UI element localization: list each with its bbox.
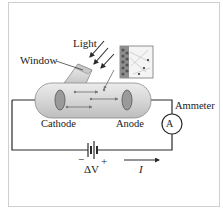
anode-label: Anode xyxy=(116,119,144,130)
cathode-electrode xyxy=(55,90,65,110)
ammeter-symbol: A xyxy=(166,119,173,129)
current-label: I xyxy=(139,164,143,175)
vacuum-tube xyxy=(35,83,151,118)
light-label: Light xyxy=(73,38,97,49)
cathode-label: Cathode xyxy=(41,119,76,130)
battery-plus-label: + xyxy=(101,156,107,167)
battery-icon xyxy=(88,141,97,159)
window-label: Window xyxy=(20,55,57,66)
voltage-label: ΔV xyxy=(84,164,99,175)
anode-electrode xyxy=(122,90,132,110)
electron-emission-inset-icon xyxy=(120,46,153,78)
ammeter-label: Ammeter xyxy=(175,101,215,112)
